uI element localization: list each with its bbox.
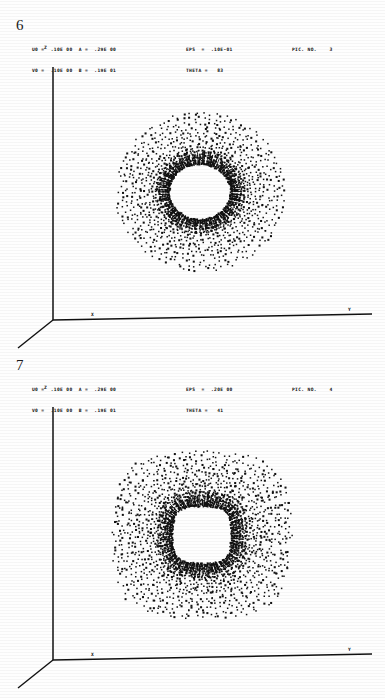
scanned-page: 6 U0 = .10E 00 A = .29E 00 V0 = .10E 00 … xyxy=(0,0,385,698)
figure-panel-7: 7 U0 = .10E 00 A = .29E 00 V0 = .10E 00 … xyxy=(0,352,385,692)
figure-panel-6: 6 U0 = .10E 00 A = .29E 00 V0 = .10E 00 … xyxy=(0,12,385,352)
point-cloud-plot xyxy=(0,12,385,352)
point-cloud-plot xyxy=(0,352,385,692)
